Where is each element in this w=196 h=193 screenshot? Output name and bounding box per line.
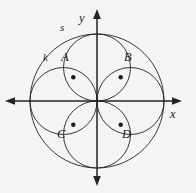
outer-circle-label: s	[60, 22, 64, 33]
x-axis-arrow-left	[5, 97, 15, 105]
x-axis-arrow-right	[172, 97, 182, 105]
x-axis-label: x	[170, 108, 176, 121]
point-b-label: B	[124, 51, 132, 64]
point-a-dot	[71, 75, 75, 79]
petal-circle-label: k	[43, 52, 48, 63]
point-c-dot	[71, 123, 75, 127]
point-a-label: A	[61, 51, 69, 64]
point-b-dot	[119, 75, 123, 79]
geometry-figure: y x s k A B C D	[0, 0, 196, 193]
y-axis-arrow-up	[93, 9, 101, 19]
point-c-label: C	[57, 128, 65, 141]
y-axis-arrow-down	[93, 176, 101, 186]
point-d-label: D	[122, 128, 131, 141]
geometry-canvas	[0, 0, 196, 193]
y-axis-label: y	[79, 12, 85, 25]
